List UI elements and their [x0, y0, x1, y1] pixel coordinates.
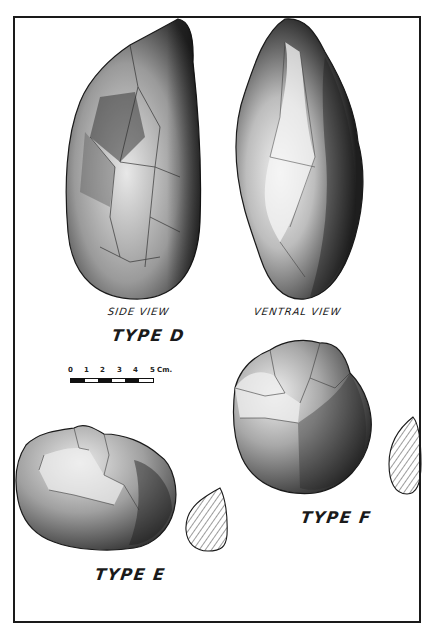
- scale-unit: Cm.: [157, 366, 172, 374]
- type-e-cross-section: [183, 485, 233, 555]
- type-d-side-view-illustration: [60, 17, 210, 302]
- scale-segment: [112, 379, 126, 382]
- scale-segment: [71, 379, 85, 382]
- scale-tick-4: 4: [133, 366, 138, 374]
- type-d-label: TYPE D: [111, 326, 187, 345]
- scale-segment: [85, 379, 99, 382]
- type-f-cross-section: [385, 414, 425, 498]
- scale-bar: 0 1 2 3 4 5 Cm.: [66, 366, 176, 390]
- scale-segment: [98, 379, 112, 382]
- type-d-ventral-view-illustration: [230, 17, 370, 302]
- type-f-illustration: [230, 338, 380, 498]
- type-e-illustration: [14, 420, 184, 555]
- scale-tick-0: 0: [68, 366, 73, 374]
- scale-tick-2: 2: [100, 366, 105, 374]
- type-e-label: TYPE E: [94, 565, 167, 584]
- scale-tick-5: 5: [150, 366, 155, 374]
- scale-tick-3: 3: [117, 366, 122, 374]
- side-view-label: SIDE VIEW: [107, 306, 170, 317]
- scale-segment: [125, 379, 139, 382]
- scale-segment: [139, 379, 153, 382]
- type-f-label: TYPE F: [300, 508, 373, 527]
- ventral-view-label: VENTRAL VIEW: [253, 306, 342, 317]
- scale-tick-1: 1: [84, 366, 89, 374]
- scale-bar-segments: [70, 378, 154, 383]
